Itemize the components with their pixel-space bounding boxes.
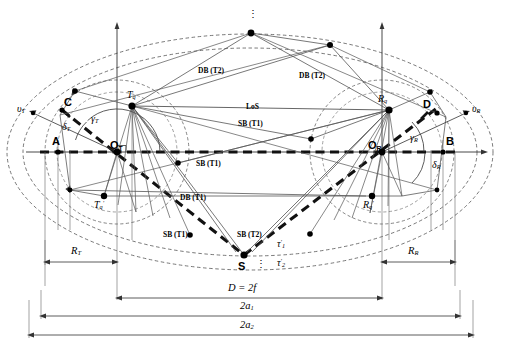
label-point-d: D bbox=[423, 99, 431, 110]
ray-sb-t1-upper bbox=[132, 106, 311, 139]
label-sb-t1-mid: SB (T1) bbox=[196, 160, 221, 168]
point-scatterer-mid-right bbox=[308, 136, 314, 142]
ray-sb-t1-upper2 bbox=[311, 110, 389, 139]
dim-2a1-arrow-left bbox=[39, 314, 46, 319]
label-velocity-tx-sub: T bbox=[22, 107, 25, 114]
ray-tx-fan-7 bbox=[132, 106, 244, 255]
label-tau-2: τ'2 bbox=[277, 258, 285, 269]
label-delta-r: δR bbox=[432, 160, 440, 171]
point-c bbox=[59, 107, 64, 112]
label-rx-center-sub: R bbox=[377, 145, 382, 152]
label-rx-element-sub: q bbox=[384, 97, 387, 104]
label-tx-center: OT bbox=[110, 140, 123, 152]
label-rx-local-scatterer-prime: ' bbox=[372, 199, 373, 206]
horizontal-axis-arrow bbox=[481, 150, 488, 155]
point-a bbox=[55, 149, 60, 154]
ray-los bbox=[132, 106, 389, 110]
label-rx-local-scatterer: Rq' bbox=[363, 200, 374, 211]
ray-cross-3 bbox=[251, 33, 446, 117]
point-ellipse-scatterer-top bbox=[248, 30, 255, 37]
dim-2a1-arrow-right bbox=[455, 314, 462, 319]
point-rx-box-corner bbox=[435, 188, 440, 193]
label-dim-2a1: 2a1 bbox=[240, 301, 254, 312]
point-ellipse-scatterer-upper-left bbox=[72, 88, 78, 94]
ray-tx-fan-4 bbox=[132, 106, 153, 216]
label-delta-t-sub: T bbox=[67, 125, 70, 132]
point-b bbox=[440, 149, 445, 154]
ray-db-t2-a2 bbox=[251, 33, 330, 45]
dim-rr-arrow-left bbox=[380, 260, 387, 265]
point-rx-velocity-tip bbox=[464, 111, 468, 115]
label-rx-center-base: O bbox=[368, 139, 377, 151]
label-velocity-rx: υR bbox=[472, 104, 480, 115]
ray-cross-1 bbox=[60, 45, 330, 115]
point-tx-velocity-tip bbox=[31, 111, 35, 115]
point-d bbox=[434, 110, 439, 115]
label-tx-local-scatterer-prime: ' bbox=[103, 199, 104, 206]
label-tx-center-sub: T bbox=[119, 145, 123, 152]
label-delta-t: δT bbox=[62, 122, 70, 133]
rx-box-edge-3 bbox=[402, 190, 437, 196]
label-velocity-tx: υT bbox=[17, 104, 25, 115]
label-ellipsis-top: ⋮ bbox=[248, 8, 258, 19]
label-gamma-t: γT bbox=[91, 114, 98, 125]
label-dim-rt: RT bbox=[71, 246, 81, 257]
point-scatterer-lower-left bbox=[187, 232, 193, 238]
label-dim-rr: RR bbox=[408, 246, 418, 257]
node-points bbox=[31, 30, 468, 259]
label-dim-rt-sub: T bbox=[77, 249, 81, 256]
dim-d-arrow-right bbox=[377, 296, 384, 301]
point-ellipse-scatterer-upper-right bbox=[327, 42, 333, 48]
label-dim-2a2-sub: 2 bbox=[251, 323, 254, 330]
label-tau-2-sub: 2 bbox=[282, 261, 285, 268]
ray-ot-down-1 bbox=[104, 152, 117, 196]
label-tx-center-base: O bbox=[110, 139, 119, 151]
label-dim-2a2: 2a2 bbox=[240, 320, 254, 331]
point-tx-box-corner bbox=[68, 188, 73, 193]
figure-canvas: A B C D S Tq Rq OT OR Tq' Rq' γT γR δT δ… bbox=[0, 0, 506, 353]
label-ellipsis-bottom: ⋮ bbox=[256, 258, 266, 269]
dim-2a2-arrow-right bbox=[468, 333, 475, 338]
label-dim-rr-sub: R bbox=[414, 249, 418, 256]
ray-sb-t2-out bbox=[252, 110, 389, 252]
label-point-a: A bbox=[52, 136, 60, 147]
dim-rt-arrow-left bbox=[43, 260, 50, 265]
label-gamma-r-sub: R bbox=[414, 136, 418, 143]
label-sb-t1-upper: SB (T1) bbox=[238, 120, 263, 128]
rx-d-marker bbox=[421, 112, 428, 119]
point-scatterer-lower-right bbox=[307, 231, 313, 237]
label-dim-2a2-base: 2a bbox=[240, 319, 251, 330]
ray-tx-fan-6 bbox=[132, 106, 190, 235]
rx-array-axis bbox=[244, 108, 437, 255]
label-dim-2a1-sub: 1 bbox=[251, 304, 254, 311]
ray-db-t2-a1 bbox=[132, 33, 251, 106]
ray-db-t1-a bbox=[70, 190, 366, 196]
label-tx-element: Tq bbox=[127, 90, 136, 101]
label-point-c: C bbox=[64, 97, 72, 108]
label-gamma-t-sub: T bbox=[95, 117, 98, 124]
ray-rx-fan-5 bbox=[334, 110, 389, 220]
label-dim-d: D = 2f bbox=[228, 283, 256, 294]
point-scatterer-mid-left bbox=[175, 160, 181, 166]
label-db-t2-left: DB (T2) bbox=[198, 67, 224, 75]
label-tx-local-scatterer: Tq' bbox=[94, 200, 104, 211]
label-gamma-r: γR bbox=[410, 133, 418, 144]
label-rx-center: OR bbox=[368, 140, 381, 152]
label-db-t1: DB (T1) bbox=[180, 194, 206, 202]
ray-rx-fan-7 bbox=[244, 110, 389, 255]
point-rx-element bbox=[385, 106, 392, 113]
label-tau-1: τ'1 bbox=[277, 239, 285, 250]
dim-rt-arrow-right bbox=[112, 260, 119, 265]
label-los: LoS bbox=[246, 103, 259, 111]
label-sb-t1-lower: SB (T1) bbox=[163, 231, 188, 239]
label-tau-1-sub: 1 bbox=[282, 242, 285, 249]
label-delta-r-sub: R bbox=[437, 163, 441, 170]
label-point-s: S bbox=[238, 261, 245, 272]
label-db-t2-right: DB (T2) bbox=[299, 72, 325, 80]
label-dim-2a1-base: 2a bbox=[240, 300, 251, 311]
ray-ot-down-2 bbox=[117, 152, 136, 212]
ray-rx-fan-6 bbox=[310, 110, 389, 234]
dim-2a2-arrow-left bbox=[27, 333, 34, 338]
dim-rr-arrow-right bbox=[450, 260, 457, 265]
point-s-scatterer bbox=[240, 251, 247, 258]
